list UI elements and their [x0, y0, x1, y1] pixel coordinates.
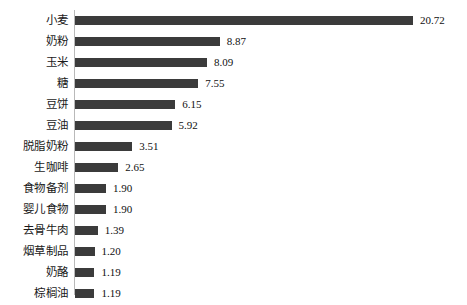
bar-row: 小麦20.72 [0, 10, 467, 31]
category-label: 奶酪 [0, 262, 68, 283]
bar-value-label: 2.65 [125, 157, 144, 178]
bar-row: 奶粉8.87 [0, 31, 467, 52]
bar-value-label: 1.90 [113, 199, 132, 220]
bar-track: 1.39 [75, 220, 467, 241]
bar-value-label: 1.20 [102, 241, 121, 262]
bar [75, 226, 98, 235]
category-label: 生咖啡 [0, 157, 68, 178]
bar-track: 8.09 [75, 52, 467, 73]
category-label: 豆饼 [0, 94, 68, 115]
bar-row: 糖7.55 [0, 73, 467, 94]
bar-value-label: 5.92 [179, 115, 198, 136]
bar-rows-container: 小麦20.72奶粉8.87玉米8.09糖7.55豆饼6.15豆油5.92脱脂奶粉… [0, 10, 467, 304]
bar-value-label: 20.72 [420, 10, 445, 31]
bar-row: 奶酪1.19 [0, 262, 467, 283]
horizontal-bar-chart: 小麦20.72奶粉8.87玉米8.09糖7.55豆饼6.15豆油5.92脱脂奶粉… [0, 0, 467, 305]
bar-track: 5.92 [75, 115, 467, 136]
bar-track: 3.51 [75, 136, 467, 157]
bar-track: 8.87 [75, 31, 467, 52]
bar-row: 豆饼6.15 [0, 94, 467, 115]
bar-value-label: 1.90 [113, 178, 132, 199]
bar [75, 268, 94, 277]
bar-track: 20.72 [75, 10, 467, 31]
bar-value-label: 6.15 [182, 94, 201, 115]
category-label: 奶粉 [0, 31, 68, 52]
bar [75, 205, 106, 214]
category-label: 豆油 [0, 115, 68, 136]
bar-track: 6.15 [75, 94, 467, 115]
bar-track: 1.90 [75, 178, 467, 199]
bar-value-label: 1.39 [105, 220, 124, 241]
bar [75, 100, 175, 109]
bar-value-label: 8.09 [214, 52, 233, 73]
bar [75, 58, 207, 67]
bar-row: 生咖啡2.65 [0, 157, 467, 178]
category-label: 糖 [0, 73, 68, 94]
bar [75, 16, 413, 25]
category-label: 棕榈油 [0, 283, 68, 304]
bar-track: 1.19 [75, 262, 467, 283]
bar [75, 79, 198, 88]
category-label: 去骨牛肉 [0, 220, 68, 241]
bar-value-label: 3.51 [139, 136, 158, 157]
category-label: 脱脂奶粉 [0, 136, 68, 157]
plot-area: 小麦20.72奶粉8.87玉米8.09糖7.55豆饼6.15豆油5.92脱脂奶粉… [0, 0, 467, 305]
category-label: 小麦 [0, 10, 68, 31]
bar [75, 184, 106, 193]
category-label: 玉米 [0, 52, 68, 73]
bar-row: 豆油5.92 [0, 115, 467, 136]
bar-track: 1.20 [75, 241, 467, 262]
bar [75, 142, 132, 151]
bar-row: 玉米8.09 [0, 52, 467, 73]
bar [75, 289, 94, 298]
bar-row: 去骨牛肉1.39 [0, 220, 467, 241]
bar [75, 163, 118, 172]
bar-value-label: 7.55 [205, 73, 224, 94]
bar [75, 247, 95, 256]
bar-value-label: 1.19 [101, 262, 120, 283]
bar [75, 37, 220, 46]
bar-track: 1.19 [75, 283, 467, 304]
bar-track: 7.55 [75, 73, 467, 94]
bar-track: 2.65 [75, 157, 467, 178]
bar [75, 121, 172, 130]
bar-value-label: 1.19 [101, 283, 120, 304]
bar-row: 脱脂奶粉3.51 [0, 136, 467, 157]
category-label: 婴儿食物 [0, 199, 68, 220]
bar-row: 棕榈油1.19 [0, 283, 467, 304]
bar-row: 食物备剂1.90 [0, 178, 467, 199]
category-label: 烟草制品 [0, 241, 68, 262]
bar-track: 1.90 [75, 199, 467, 220]
bar-row: 婴儿食物1.90 [0, 199, 467, 220]
bar-row: 烟草制品1.20 [0, 241, 467, 262]
bar-value-label: 8.87 [227, 31, 246, 52]
category-label: 食物备剂 [0, 178, 68, 199]
